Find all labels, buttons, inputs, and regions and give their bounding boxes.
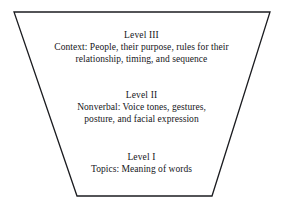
level-2-block: Level II Nonverbal: Voice tones, gesture… bbox=[0, 89, 283, 125]
level-3-heading: Level III bbox=[0, 29, 283, 41]
level-3-line-1: Context: People, their purpose, rules fo… bbox=[0, 41, 283, 53]
level-2-heading: Level II bbox=[0, 89, 283, 101]
level-2-line-1: Nonverbal: Voice tones, gestures, bbox=[0, 101, 283, 113]
diagram-canvas: Level III Context: People, their purpose… bbox=[0, 0, 283, 208]
level-3-line-2: relationship, timing, and sequence bbox=[0, 53, 283, 65]
level-1-block: Level I Topics: Meaning of words bbox=[0, 151, 283, 175]
level-3-block: Level III Context: People, their purpose… bbox=[0, 29, 283, 65]
level-2-line-2: posture, and facial expression bbox=[0, 113, 283, 125]
level-1-line-1: Topics: Meaning of words bbox=[0, 163, 283, 175]
level-1-heading: Level I bbox=[0, 151, 283, 163]
